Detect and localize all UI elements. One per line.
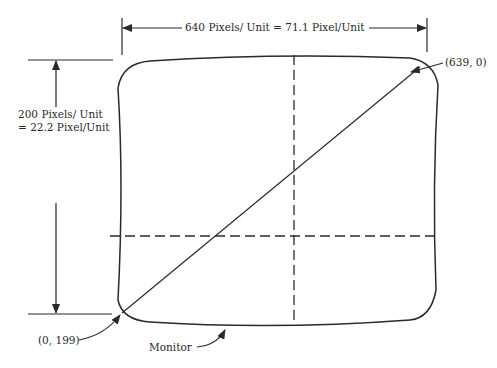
monitor-diagram	[0, 0, 497, 368]
height-dimension-label-line2: = 22.2 Pixel/Unit	[18, 121, 110, 134]
bottom-left-callout-arrow	[79, 315, 120, 340]
width-dimension-label: 640 Pixels/ Unit = 71.1 Pixel/Unit	[185, 21, 365, 34]
height-dimension-label-line1: 200 Pixels/ Unit	[18, 108, 103, 121]
monitor-callout-arrow	[197, 330, 225, 347]
top-right-coordinate-label: (639, 0)	[445, 56, 487, 69]
diagonal-line	[122, 67, 420, 313]
bottom-left-coordinate-label: (0, 199)	[38, 334, 80, 347]
monitor-outline	[118, 56, 438, 325]
monitor-label: Monitor	[149, 341, 192, 354]
